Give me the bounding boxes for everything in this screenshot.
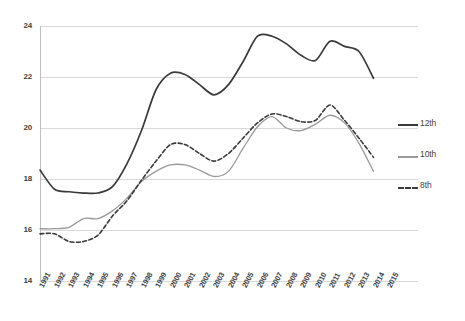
- chart-legend: 12th 10th 8th: [398, 118, 464, 211]
- y-tick-18: 18: [10, 174, 32, 183]
- y-tick-20: 20: [10, 123, 32, 132]
- series-line-10th: [40, 115, 374, 229]
- legend-item-10th: 10th: [398, 149, 464, 180]
- y-tick-22: 22: [10, 72, 32, 81]
- legend-item-12th: 12th: [398, 118, 464, 149]
- legend-item-8th: 8th: [398, 180, 464, 211]
- series-line-12th: [40, 34, 374, 193]
- legend-line-swatch-12th: [398, 124, 418, 126]
- chart-figure: 141618202224 199119921993199419951996199…: [0, 0, 465, 321]
- y-tick-24: 24: [10, 21, 32, 30]
- data-series-group: [40, 34, 374, 242]
- y-tick-16: 16: [10, 225, 32, 234]
- legend-label-12th: 12th: [420, 118, 436, 128]
- y-tick-14: 14: [10, 276, 32, 285]
- legend-label-8th: 8th: [420, 180, 432, 190]
- legend-line-swatch-10th: [398, 156, 418, 158]
- legend-line-swatch-8th: [398, 187, 418, 189]
- legend-label-10th: 10th: [420, 149, 436, 159]
